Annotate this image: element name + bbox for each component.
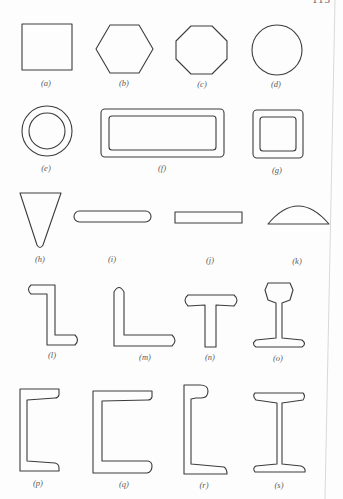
shape-q-channel-wide bbox=[93, 391, 152, 473]
label-a: (a) bbox=[26, 78, 66, 88]
shape-m-angle bbox=[114, 288, 175, 347]
label-n: (n) bbox=[190, 352, 230, 362]
label-q: (q) bbox=[104, 479, 144, 489]
shape-l-z-section bbox=[29, 285, 78, 345]
shape-o-rail bbox=[254, 283, 305, 347]
shape-h-wedge bbox=[20, 193, 61, 248]
label-b: (b) bbox=[104, 78, 144, 88]
label-o: (o) bbox=[258, 353, 298, 363]
label-c: (c) bbox=[182, 79, 222, 89]
shape-d-circle bbox=[252, 25, 302, 75]
shape-e-round-tube bbox=[22, 106, 72, 156]
label-i: (i) bbox=[92, 254, 132, 264]
shape-j-flat-bar bbox=[175, 212, 242, 223]
label-p: (p) bbox=[18, 478, 58, 488]
label-d: (d) bbox=[256, 79, 296, 89]
book-page: 113 bbox=[0, 0, 343, 499]
shape-n-tee bbox=[185, 295, 237, 347]
shape-s-i-beam bbox=[254, 393, 305, 472]
label-l: (l) bbox=[32, 350, 72, 360]
shape-f-rect-tube bbox=[101, 109, 224, 157]
label-m: (m) bbox=[125, 352, 165, 362]
label-f: (f) bbox=[142, 163, 182, 173]
label-k: (k) bbox=[277, 256, 317, 266]
label-s: (s) bbox=[259, 480, 299, 490]
shape-a-square bbox=[22, 24, 72, 70]
label-r: (r) bbox=[184, 480, 224, 490]
cross-section-figure bbox=[0, 0, 343, 499]
shape-p-channel-narrow bbox=[20, 389, 59, 471]
shape-c-octagon bbox=[176, 26, 227, 74]
shape-k-half-round bbox=[268, 206, 329, 224]
shape-r-bulb-channel bbox=[184, 385, 227, 474]
label-h: (h) bbox=[20, 254, 60, 264]
label-e: (e) bbox=[26, 163, 66, 173]
shape-i-rounded-flat bbox=[74, 211, 151, 222]
label-j: (j) bbox=[190, 255, 230, 265]
label-g: (g) bbox=[257, 165, 297, 175]
shape-b-hexagon bbox=[96, 25, 153, 73]
shape-g-square-tube bbox=[253, 110, 303, 158]
